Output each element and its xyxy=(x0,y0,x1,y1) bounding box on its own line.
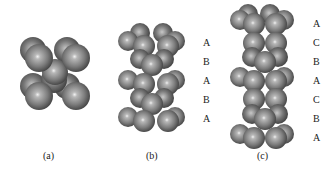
panel-a-caption: (a) xyxy=(43,151,54,161)
panel-c-caption: (c) xyxy=(257,151,268,161)
panel-c-layer-label: C xyxy=(313,38,320,48)
panel-a-structure xyxy=(20,37,90,110)
panel-c-structure xyxy=(230,4,294,149)
panel-b-layer-label: B xyxy=(203,95,210,105)
panel-c-layer-label: B xyxy=(313,114,320,124)
panel-b-caption: (b) xyxy=(146,151,158,161)
panel-b-layer-label: A xyxy=(203,114,210,124)
panel-c-layer-label: A xyxy=(313,19,320,29)
panel-b-layer-label: B xyxy=(203,57,210,67)
panel-c-layer-label: A xyxy=(313,133,320,143)
panel-b-structure xyxy=(118,23,185,132)
panel-c-layer-label: C xyxy=(313,95,320,105)
panel-c-layer-label: B xyxy=(313,57,320,67)
panel-b-layer-label: A xyxy=(203,38,210,48)
crystal-packing-diagram xyxy=(0,0,331,174)
panel-b-layer-label: A xyxy=(203,76,210,86)
panel-c-layer-label: A xyxy=(313,76,320,86)
